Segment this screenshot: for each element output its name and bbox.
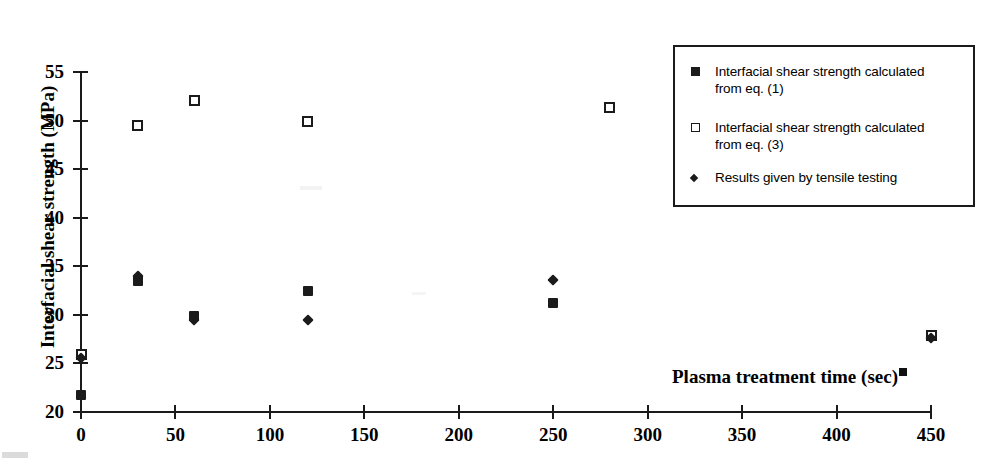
diamond-icon <box>690 173 698 181</box>
x-tick-label: 150 <box>334 425 394 444</box>
x-tick-label: 250 <box>523 425 583 444</box>
legend-entry-label: Results given by tensile testing <box>715 169 897 186</box>
y-tick-label: 20 <box>24 402 64 421</box>
x-tick-label: 450 <box>901 425 961 444</box>
x-tick <box>930 405 932 419</box>
data-point-open-square <box>132 120 143 131</box>
y-tick-label: 35 <box>24 256 64 275</box>
data-point-filled-square <box>548 298 558 308</box>
x-tick <box>647 405 649 419</box>
legend-marker-diamond-icon <box>691 169 711 186</box>
data-point-filled-square <box>76 390 86 400</box>
x-tick <box>552 405 554 419</box>
x-tick-label: 100 <box>240 425 300 444</box>
data-point-open-square <box>189 95 200 106</box>
y-tick-label: 25 <box>24 353 64 372</box>
y-tick <box>73 314 88 316</box>
x-tick-label: 0 <box>51 425 111 444</box>
scan-speckle <box>2 452 28 458</box>
filled-square-icon <box>691 67 700 76</box>
y-tick-label: 55 <box>24 62 64 81</box>
x-tick <box>741 405 743 419</box>
y-tick-label: 50 <box>24 111 64 130</box>
y-tick <box>73 71 88 73</box>
legend-entry: Interfacial shear strength calculated fr… <box>691 63 924 97</box>
x-tick-label: 400 <box>807 425 867 444</box>
x-axis-line <box>80 411 932 413</box>
data-point-filled-square <box>303 286 313 296</box>
y-tick-label: 30 <box>24 305 64 324</box>
y-tick <box>73 217 88 219</box>
x-tick <box>836 405 838 419</box>
figure-canvas: Interfacial shear strength (MPa) Plasma … <box>0 0 986 464</box>
legend-box: Interfacial shear strength calculated fr… <box>673 45 975 207</box>
x-tick-label: 200 <box>429 425 489 444</box>
scan-speckle <box>412 292 426 295</box>
legend-entry: Results given by tensile testing <box>691 169 897 186</box>
scan-speckle <box>300 186 322 190</box>
data-point-diamond <box>302 314 313 325</box>
scan-artifact-square-icon <box>899 368 907 376</box>
x-axis-title: Plasma treatment time (sec) <box>672 366 907 388</box>
y-tick-label: 45 <box>24 159 64 178</box>
y-tick-label: 40 <box>24 208 64 227</box>
x-axis-title-text: Plasma treatment time (sec) <box>672 366 898 387</box>
open-square-icon <box>691 123 700 132</box>
x-tick <box>174 405 176 419</box>
legend-entry-label: Interfacial shear strength calculated fr… <box>715 63 924 97</box>
data-point-diamond <box>548 274 559 285</box>
legend-marker-filled-square-icon <box>691 63 711 80</box>
y-tick <box>73 265 88 267</box>
legend-entry: Interfacial shear strength calculated fr… <box>691 119 924 153</box>
x-tick-label: 300 <box>618 425 678 444</box>
x-tick-label: 50 <box>145 425 205 444</box>
x-tick <box>363 405 365 419</box>
data-point-open-square <box>604 102 615 113</box>
x-tick <box>80 405 82 419</box>
x-tick-label: 350 <box>712 425 772 444</box>
y-tick <box>73 168 88 170</box>
data-point-open-square <box>302 116 313 127</box>
x-tick <box>458 405 460 419</box>
legend-marker-open-square-icon <box>691 119 711 136</box>
legend-entry-label: Interfacial shear strength calculated fr… <box>715 119 924 153</box>
y-tick <box>73 120 88 122</box>
x-tick <box>269 405 271 419</box>
